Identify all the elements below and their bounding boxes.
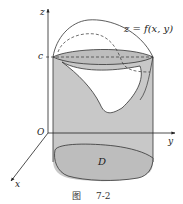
y-axis-label: y <box>168 137 173 146</box>
x-axis-label: x <box>15 180 20 189</box>
figure-caption-number: 7-2 <box>96 192 111 201</box>
surface-label: z = f(x, y) <box>124 24 173 34</box>
region-d-label: D <box>98 157 106 167</box>
x-axis <box>11 133 48 181</box>
figure-caption-prefix: 图 <box>72 192 81 201</box>
c-level-label: c <box>38 52 43 61</box>
origin-label: O <box>37 128 44 137</box>
z-axis-label: z <box>40 8 45 17</box>
